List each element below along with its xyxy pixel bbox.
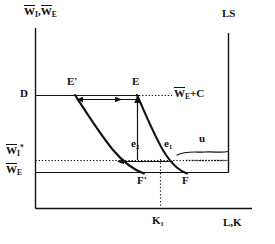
arrow-E-to-E-prime — [76, 97, 138, 102]
labor-supply-label: LS — [222, 8, 235, 19]
level-label-D: D — [20, 88, 28, 99]
level-label-WI-star: WI* — [6, 144, 24, 158]
level-label-WE: WE — [6, 164, 22, 177]
unemployment-label: u — [199, 133, 205, 144]
point-label-F-prime: F' — [137, 175, 147, 186]
economics-diagram: WI,WE LS D E' E WE+C WI* WE e₂ e₁ u F' F… — [0, 0, 275, 244]
axis-label-LK: L,K — [223, 217, 242, 228]
unemployment-brace — [177, 152, 228, 156]
point-label-e2: e₂ — [131, 138, 139, 149]
point-label-e1: e₁ — [164, 138, 172, 149]
arrow-e2-up — [134, 95, 140, 160]
diagram-canvas — [0, 0, 275, 244]
point-label-E-prime: E' — [67, 76, 77, 87]
capital-label: K₁ — [152, 215, 164, 226]
axis-label-wages: WI,WE — [24, 6, 57, 19]
wage-plus-cost-label: WE+C — [174, 88, 204, 101]
point-label-F: F — [182, 175, 189, 186]
point-label-E: E — [132, 76, 139, 87]
